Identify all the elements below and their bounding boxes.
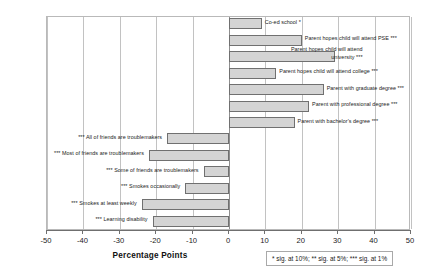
tick-label--30: -30 <box>113 236 124 245</box>
bar-label: Parent with graduate degree *** <box>327 85 404 92</box>
tick-label-50: 50 <box>406 236 414 245</box>
bar-label: Co-ed school * <box>265 19 301 26</box>
bar-label: *** Learning disability <box>95 216 147 223</box>
bar <box>229 84 324 95</box>
plot-area: Co-ed school *Parent hopes child will at… <box>46 16 410 230</box>
tick-label-30: 30 <box>333 236 341 245</box>
bar-label: Parent with professional degree *** <box>312 101 397 108</box>
bar <box>204 166 229 177</box>
tick-mark--10 <box>192 230 193 234</box>
bar-label: *** Smokes occasionally <box>121 183 180 190</box>
tick-mark--20 <box>155 230 156 234</box>
chart-container: Co-ed school *Parent hopes child will at… <box>0 0 431 274</box>
bar <box>229 18 262 29</box>
bar-label: *** Most of friends are troublemakers <box>54 150 144 157</box>
tick-mark-0 <box>228 230 229 234</box>
gridline-50 <box>411 17 412 229</box>
tick-mark-40 <box>374 230 375 234</box>
tick-mark-10 <box>264 230 265 234</box>
tick-mark-20 <box>301 230 302 234</box>
bar <box>229 35 302 46</box>
x-axis-title: Percentage Points <box>0 251 300 260</box>
bar <box>229 101 309 112</box>
tick-label--20: -20 <box>150 236 161 245</box>
bar-label: Parent with bachelor's degree *** <box>298 118 379 125</box>
tick-label-0: 0 <box>226 236 230 245</box>
tick-label--10: -10 <box>186 236 197 245</box>
significance-note: * sig. at 10%; ** sig. at 5%; *** sig. a… <box>266 251 393 266</box>
bar <box>153 216 229 227</box>
tick-mark--40 <box>82 230 83 234</box>
bar <box>229 117 295 128</box>
bar-label: *** Some of friends are troublemakers <box>106 167 198 174</box>
bar-label: Parent hopes child will attend universit… <box>289 46 363 61</box>
bar <box>229 68 276 79</box>
tick-mark--30 <box>119 230 120 234</box>
tick-mark-50 <box>410 230 411 234</box>
tick-label-20: 20 <box>297 236 305 245</box>
tick-mark-30 <box>337 230 338 234</box>
bar-label: *** All of friends are troublemakers <box>78 134 162 141</box>
tick-label--40: -40 <box>77 236 88 245</box>
tick-label--50: -50 <box>41 236 52 245</box>
bar-label: *** Smokes at least weekly <box>71 200 136 207</box>
bar <box>149 150 229 161</box>
bar <box>185 183 229 194</box>
bar <box>142 199 229 210</box>
tick-mark--50 <box>46 230 47 234</box>
tick-label-10: 10 <box>260 236 268 245</box>
bar-label: Parent hopes child will attend PSE *** <box>305 35 397 42</box>
bar <box>167 133 229 144</box>
bar-label: Parent hopes child will attend college *… <box>279 68 378 75</box>
tick-label-40: 40 <box>369 236 377 245</box>
